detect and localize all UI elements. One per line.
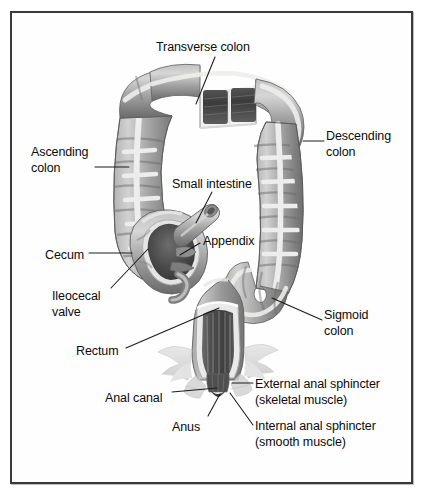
label-ileocecal-valve: Ileocecal valve [52, 289, 100, 320]
label-ascending-colon: Ascending colon [31, 145, 88, 176]
label-rectum: Rectum [76, 344, 118, 360]
label-sigmoid-colon: Sigmoid colon [324, 308, 368, 339]
figure-root: Transverse colon Descending colon Ascend… [0, 0, 429, 498]
label-appendix: Appendix [203, 234, 254, 250]
leader-anus [208, 394, 220, 416]
label-transverse-colon: Transverse colon [156, 40, 250, 56]
descending-colon-structure [254, 122, 305, 294]
label-external-anal-sphincter: External anal sphincter (skeletal muscle… [255, 377, 380, 408]
label-cecum: Cecum [45, 248, 84, 264]
leader-internal-anal-sphincter [230, 393, 253, 425]
label-anus: Anus [172, 420, 200, 436]
label-anal-canal: Anal canal [105, 391, 162, 407]
rectum-structure [192, 278, 244, 380]
label-descending-colon: Descending colon [326, 129, 391, 160]
label-internal-anal-sphincter: Internal anal sphincter (smooth muscle) [255, 419, 376, 450]
anal-canal-structure [207, 374, 230, 397]
label-small-intestine: Small intestine [172, 177, 252, 193]
